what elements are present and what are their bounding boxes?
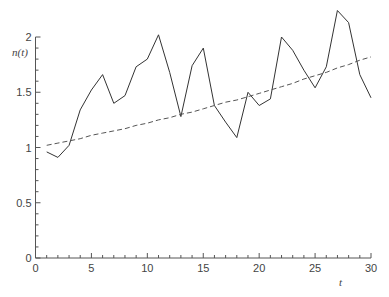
y-tick-label: 1.5 <box>16 86 31 98</box>
x-tick-label: 5 <box>88 262 94 274</box>
x-tick-label: 20 <box>253 262 265 274</box>
data-line-solid <box>47 11 371 158</box>
y-tick-label: 0 <box>25 252 31 264</box>
y-tick-label: 2 <box>25 31 31 43</box>
trend-line-dashed <box>47 57 371 145</box>
x-tick-label: 25 <box>309 262 321 274</box>
plot-area <box>47 11 371 158</box>
x-axis-label: t <box>339 276 343 288</box>
x-tick-label: 15 <box>197 262 209 274</box>
y-tick-label: 1 <box>25 142 31 154</box>
x-tick-label: 10 <box>141 262 153 274</box>
x-tick-label: 0 <box>32 262 38 274</box>
line-chart: 05101520253000.511.52 n(t) t <box>0 0 389 297</box>
y-tick-label: 0.5 <box>16 197 31 209</box>
x-tick-label: 30 <box>365 262 377 274</box>
axes: 05101520253000.511.52 <box>16 31 377 274</box>
y-axis-label: n(t) <box>12 46 28 59</box>
